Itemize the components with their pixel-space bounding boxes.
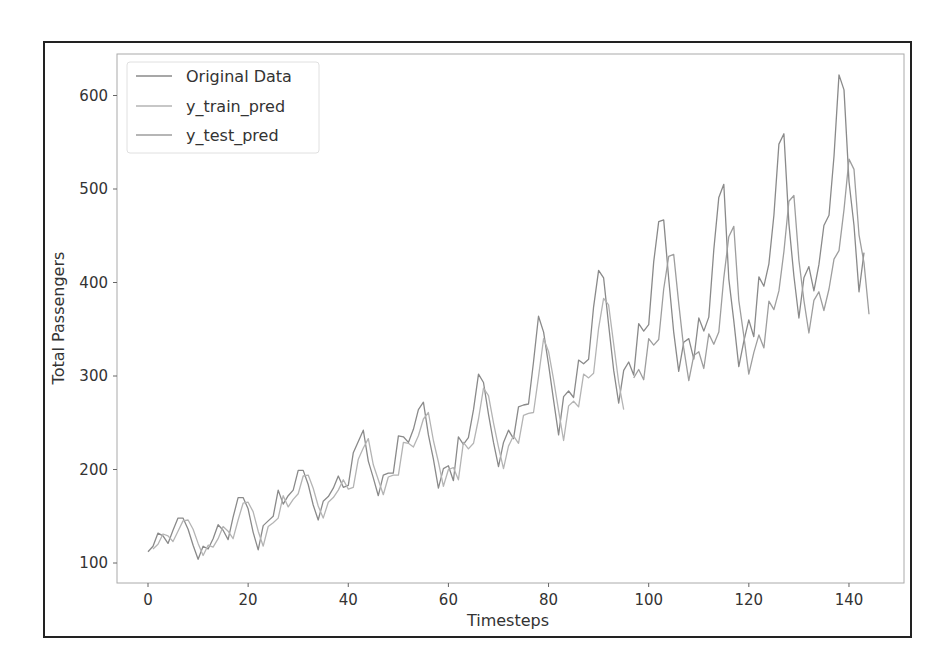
legend-label-test: y_test_pred (186, 126, 279, 146)
y-tick-label: 400 (79, 274, 108, 292)
y-tick-label: 300 (79, 367, 108, 385)
series-y-train-pred (153, 298, 624, 555)
legend-label-train: y_train_pred (186, 97, 285, 117)
x-tick-label: 140 (835, 591, 864, 609)
y-tick-label: 200 (79, 461, 108, 479)
x-tick-label: 80 (539, 591, 558, 609)
y-tick-label: 500 (79, 180, 108, 198)
y-tick-label: 600 (79, 87, 108, 105)
x-tick-label: 0 (143, 591, 153, 609)
y-axis: 100200300400500600 (79, 87, 117, 573)
y-axis-label: Total Passengers (49, 252, 68, 386)
x-tick-label: 60 (439, 591, 458, 609)
legend: Original Data y_train_pred y_test_pred (127, 62, 319, 153)
line-chart: 100200300400500600 020406080100120140 Or… (0, 0, 948, 669)
y-tick-label: 100 (79, 554, 108, 572)
x-axis-label: Timesteps (466, 611, 549, 630)
x-tick-label: 100 (634, 591, 663, 609)
x-tick-label: 120 (735, 591, 764, 609)
x-tick-label: 40 (339, 591, 358, 609)
x-tick-label: 20 (239, 591, 258, 609)
legend-label-original: Original Data (186, 67, 292, 86)
x-axis: 020406080100120140 (143, 583, 863, 609)
series-y-test-pred (634, 159, 869, 381)
